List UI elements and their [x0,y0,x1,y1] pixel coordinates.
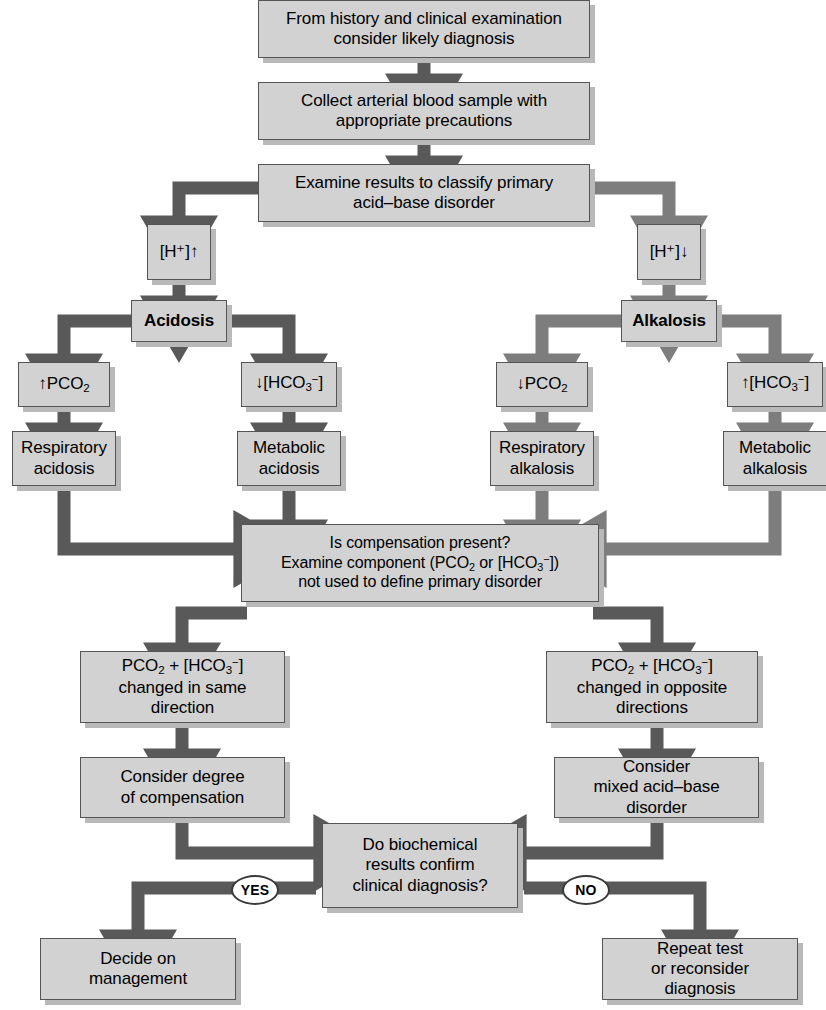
node-compensation-line3: not used to define primary disorder [298,573,542,590]
node-acidosis-label: Acidosis [139,311,219,331]
node-resp-acidosis-line1: Respiratory [21,438,107,457]
node-repeat-test: Repeat test or reconsider diagnosis [602,938,798,1000]
node-decision-line1: Do biochemical [363,835,478,854]
badge-no-label: NO [575,882,596,898]
arrow-acidosis-to-hco3-down [227,321,289,356]
node-metab-alkalosis-line2: alkalosis [743,459,807,478]
node-decide-management-line1: Decide on [100,949,176,968]
node-same-direction: PCO2 + [HCO3−] changed in same direction [80,651,285,723]
node-h-up: [H⁺]↑ [147,224,211,280]
node-resp-alkalosis-line2: alkalosis [510,459,574,478]
node-acidosis: Acidosis [131,300,227,342]
node-pco2-up: ↑PCO2 [18,362,110,407]
node-consider-mixed: Consider mixed acid–base disorder [554,757,759,818]
arrow-consider-degree-to-decision [182,818,316,853]
node-hco3-up-label: ↑[HCO3−] [736,373,814,395]
node-opposite-directions-line1: PCO2 + [HCO3−] [591,656,713,675]
node-collect-line2: appropriate precautions [336,111,512,130]
node-metab-acidosis: Metabolic acidosis [237,431,341,486]
node-h-down: [H⁺]↓ [637,224,701,280]
node-h-up-label: [H⁺]↑ [155,242,204,262]
node-history-line1: From history and clinical examination [286,9,562,28]
arrow-compensation-to-opposite-directions [593,613,657,645]
arrow-compensation-to-same-direction [182,613,247,645]
node-compensation-line2: Examine component (PCO2 or [HCO3−]) [281,554,559,571]
node-pco2-up-label: ↑PCO2 [33,374,94,396]
node-repeat-test-line1: Repeat test [657,939,743,958]
node-resp-acidosis: Respiratory acidosis [12,431,116,486]
node-alkalosis: Alkalosis [621,300,717,342]
node-consider-degree: Consider degree of compensation [80,757,285,818]
node-resp-acidosis-line2: acidosis [34,459,95,478]
node-same-direction-line2: changed in same [119,678,247,697]
node-consider-mixed-line3: disorder [626,798,687,817]
arrow-consider-mixed-to-decision [524,818,657,853]
node-consider-mixed-line1: Consider [623,757,690,776]
node-examine: Examine results to classify primary acid… [258,164,590,222]
arrow-decision-yes-to-decide-management [138,888,316,932]
node-decision-line3: clinical diagnosis? [352,876,487,895]
node-collect-line1: Collect arterial blood sample with [301,91,547,110]
arrow-alkalosis-to-hco3-up [717,321,775,356]
node-opposite-directions-line2: changed in opposite [577,678,727,697]
arrow-alkalosis-to-pco2-down [542,321,621,356]
node-repeat-test-line3: diagnosis [665,979,736,998]
node-same-direction-line1: PCO2 + [HCO3−] [122,656,244,675]
node-decision-line2: results confirm [365,855,474,874]
node-consider-degree-line1: Consider degree [120,767,244,786]
node-examine-line2: acid–base disorder [353,193,495,212]
node-resp-alkalosis-line1: Respiratory [499,438,585,457]
arrow-examine-to-h-down [590,188,669,218]
arrow-examine-to-h-up [179,188,258,218]
node-decide-management-line2: management [89,969,187,988]
node-examine-line1: Examine results to classify primary [295,173,553,192]
node-repeat-test-line2: or reconsider [651,959,749,978]
node-opposite-directions: PCO2 + [HCO3−] changed in opposite direc… [546,651,758,723]
node-hco3-down-label: ↓[HCO3−] [250,373,328,395]
badge-no: NO [562,875,610,905]
node-opposite-directions-line3: directions [616,698,688,717]
node-history-line2: consider likely diagnosis [334,29,515,48]
node-hco3-down: ↓[HCO3−] [241,362,337,407]
node-metab-alkalosis: Metabolic alkalosis [723,431,826,486]
arrow-metab-alkalosis-to-compensation [604,486,775,549]
arrow-decision-no-to-repeat-test [524,888,700,932]
node-decide-management: Decide on management [40,938,236,1000]
arrow-acidosis-to-pco2-up [64,321,131,356]
node-metab-acidosis-line2: acidosis [259,459,320,478]
node-hco3-up: ↑[HCO3−] [727,362,823,407]
node-resp-alkalosis: Respiratory alkalosis [490,431,594,486]
node-pco2-down: ↓PCO2 [496,362,588,407]
node-same-direction-line3: direction [151,698,214,717]
node-h-down-label: [H⁺]↓ [645,242,694,262]
node-consider-degree-line2: of compensation [121,788,244,807]
node-history: From history and clinical examination co… [258,0,590,58]
node-consider-mixed-line2: mixed acid–base [593,777,719,796]
node-alkalosis-label: Alkalosis [627,311,711,331]
badge-yes: YES [231,875,279,905]
node-compensation: Is compensation present? Examine compone… [241,524,599,602]
node-collect: Collect arterial blood sample with appro… [258,82,590,140]
badge-yes-label: YES [241,882,270,898]
node-decision: Do biochemical results confirm clinical … [322,823,518,908]
node-pco2-down-label: ↓PCO2 [511,374,572,396]
node-compensation-line1: Is compensation present? [330,534,511,551]
flowchart-canvas: From history and clinical examination co… [0,0,826,1010]
node-metab-alkalosis-line1: Metabolic [739,438,811,457]
arrow-resp-acidosis-to-compensation [64,486,236,549]
node-metab-acidosis-line1: Metabolic [253,438,325,457]
